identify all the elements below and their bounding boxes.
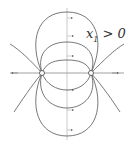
condition-label: x1 > 0 [86, 26, 126, 44]
left-lower-separatrix [14, 73, 42, 112]
phase-portrait [0, 0, 134, 147]
left-fixed-point [40, 71, 45, 76]
right-fixed-point [89, 71, 94, 76]
inner-bottom-loop [42, 73, 91, 90]
inner-top-loop [42, 60, 91, 73]
right-lower-separatrix [91, 73, 120, 112]
